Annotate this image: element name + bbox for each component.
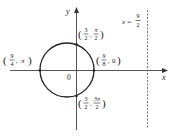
svg-text:9: 9 <box>11 53 14 59</box>
svg-text:(: ( <box>96 54 100 67</box>
svg-text:2: 2 <box>96 104 99 110</box>
svg-text:): ) <box>100 28 104 41</box>
label-point-top: ( 3 2 , π 2 ) <box>78 27 104 41</box>
directrix-num: 9 <box>137 13 140 19</box>
point-left <box>39 69 41 71</box>
label-point-right: ( 9 8 , 0 ) <box>96 53 121 67</box>
svg-text:(: ( <box>3 54 7 67</box>
svg-text:,: , <box>90 100 92 107</box>
label-point-bottom: ( 3 2 , 3π 2 ) <box>78 96 106 110</box>
svg-text:π: π <box>94 27 98 33</box>
svg-text:(: ( <box>78 28 82 41</box>
point-top <box>75 43 77 45</box>
y-axis-label: y <box>65 7 70 16</box>
svg-text:,: , <box>16 57 18 64</box>
svg-text:2: 2 <box>95 35 98 41</box>
svg-text:9: 9 <box>103 53 106 59</box>
svg-text:2: 2 <box>85 35 88 41</box>
origin-label: 0 <box>67 73 71 82</box>
directrix-den: 2 <box>137 22 140 28</box>
x-axis-label: x <box>161 73 166 82</box>
label-point-left: ( 9 4 , π ) <box>3 53 32 67</box>
directrix-lhs: x = <box>121 18 132 26</box>
y-axis-arrow-icon <box>74 7 79 13</box>
svg-text:3: 3 <box>85 27 88 33</box>
svg-text:2: 2 <box>85 104 88 110</box>
svg-text:π: π <box>21 57 25 65</box>
point-right <box>93 69 95 71</box>
svg-text:(: ( <box>78 97 82 110</box>
svg-text:0: 0 <box>112 57 116 65</box>
directrix-label: x = 9 2 <box>121 13 141 28</box>
polar-graph: y x 0 x = 9 2 ( 9 4 , π ) ( 3 2 , π 2 ) … <box>0 0 176 139</box>
svg-text:,: , <box>108 57 110 64</box>
svg-text:,: , <box>90 31 92 38</box>
svg-text:8: 8 <box>103 61 106 67</box>
svg-text:): ) <box>102 97 106 110</box>
svg-text:): ) <box>117 54 121 67</box>
svg-text:3: 3 <box>85 96 88 102</box>
svg-text:3π: 3π <box>93 96 101 102</box>
svg-text:4: 4 <box>11 61 14 67</box>
svg-text:): ) <box>28 54 32 67</box>
